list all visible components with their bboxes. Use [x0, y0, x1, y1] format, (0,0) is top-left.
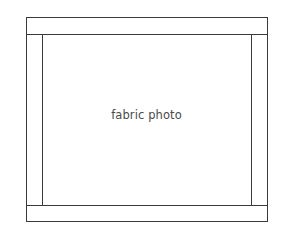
- center-panel-label: fabric photo: [42, 108, 251, 122]
- right-strip-divider: [251, 34, 252, 205]
- outer-frame-bottom: [26, 221, 268, 222]
- outer-frame-right: [267, 17, 268, 222]
- outer-frame-left: [26, 17, 27, 222]
- top-strip-divider: [26, 34, 268, 35]
- bottom-strip-divider: [26, 205, 268, 206]
- outer-frame-top: [26, 17, 268, 18]
